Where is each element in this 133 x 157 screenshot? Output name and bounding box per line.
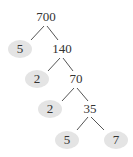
prime-node-2: 2 bbox=[38, 100, 62, 118]
edge-35-7 bbox=[91, 117, 104, 130]
node-70: 70 bbox=[61, 70, 91, 88]
edge-35-5 bbox=[77, 117, 88, 130]
factor-tree-diagram: 700 5 140 2 70 2 35 5 7 bbox=[0, 0, 133, 157]
edge-700-5 bbox=[31, 26, 44, 40]
node-140: 140 bbox=[47, 40, 77, 58]
prime-node-2: 2 bbox=[25, 70, 49, 88]
prime-node-7: 7 bbox=[104, 131, 128, 149]
edge-700-140 bbox=[47, 26, 58, 40]
node-35: 35 bbox=[75, 100, 105, 118]
node-700: 700 bbox=[31, 8, 61, 26]
edge-70-2 bbox=[62, 88, 74, 101]
prime-node-5: 5 bbox=[8, 40, 32, 58]
edge-140-2 bbox=[48, 58, 60, 71]
prime-node-5: 5 bbox=[55, 131, 79, 149]
